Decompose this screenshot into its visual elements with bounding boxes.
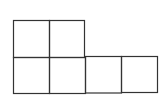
cell-r2-c3 xyxy=(86,57,122,94)
cell-r2-c1 xyxy=(14,58,50,94)
cell-r2-c2 xyxy=(50,58,86,94)
cell-r1-c1 xyxy=(14,21,50,58)
cell-r1-c2 xyxy=(50,21,85,58)
square-grid-diagram xyxy=(0,0,168,101)
cell-r2-c4 xyxy=(122,57,158,93)
